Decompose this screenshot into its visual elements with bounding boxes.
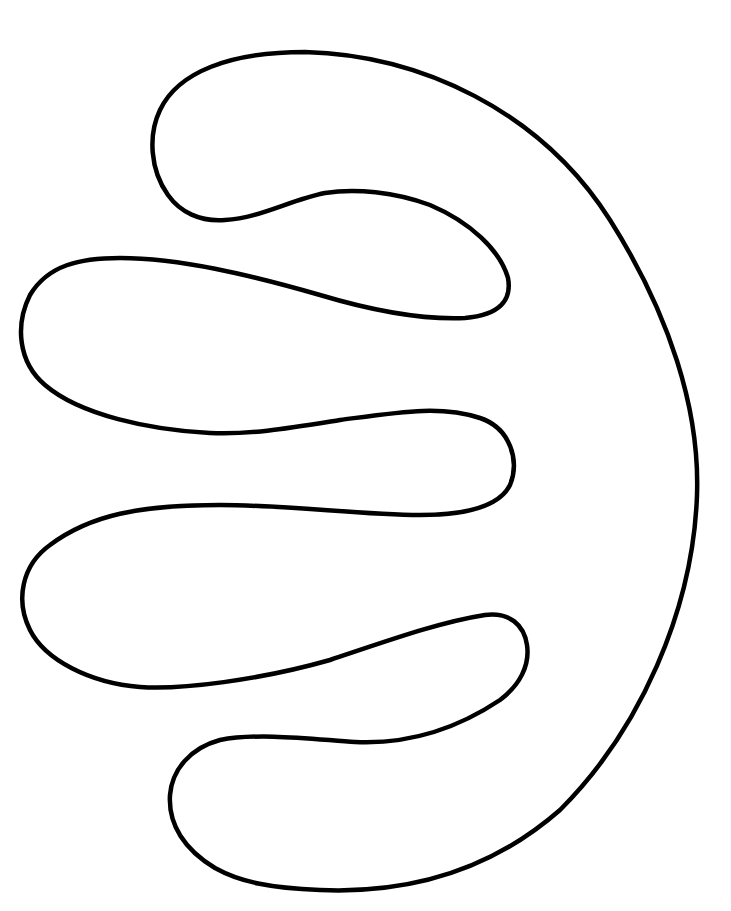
blob-outline-drawing	[0, 0, 731, 911]
blob-outline	[21, 52, 697, 890]
drawing-canvas	[0, 0, 731, 911]
